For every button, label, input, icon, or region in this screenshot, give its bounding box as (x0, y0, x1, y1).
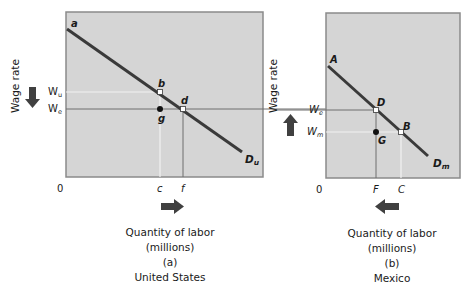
x-tick-F: F (373, 184, 379, 195)
point-b-label: b (158, 78, 165, 89)
point-B-label: B (403, 121, 411, 132)
mexico-origin-label: 0 (316, 184, 322, 195)
x-tick-C: C (398, 184, 405, 195)
wage-up-arrow-icon (283, 114, 298, 136)
point-D-marker (374, 108, 379, 113)
wage-m-label: Wm (307, 126, 323, 139)
wage-down-arrow-icon (25, 87, 40, 108)
point-G-label: G (378, 135, 386, 146)
wage-e-label-us: We (48, 103, 62, 116)
wage-u-label: Wu (48, 86, 62, 99)
us-origin-label: 0 (57, 183, 63, 194)
mexico-x-axis-label: Quantity of labor (332, 226, 452, 241)
point-g-marker (157, 106, 163, 112)
point-A-label: A (329, 54, 338, 65)
point-b-marker (158, 90, 163, 95)
point-d-label: d (181, 95, 189, 106)
labor-left-arrow-icon (375, 199, 399, 214)
mexico-caption: Quantity of labor (millions) (b) Mexico (332, 226, 452, 286)
mexico-panel-tag: (b) (332, 256, 452, 271)
point-d-marker (181, 107, 186, 112)
mexico-country-label: Mexico (332, 271, 452, 286)
point-a-label: a (71, 18, 78, 29)
point-D-label: D (377, 97, 385, 108)
us-y-axis-label: Wage rate (9, 59, 21, 113)
x-tick-c: c (157, 183, 163, 194)
us-x-axis-unit: (millions) (110, 240, 230, 255)
us-country-label: United States (110, 270, 230, 285)
labor-right-arrow-icon (161, 199, 184, 214)
us-x-axis-label: Quantity of labor (110, 225, 230, 240)
mexico-x-axis-unit: (millions) (332, 241, 452, 256)
mexico-panel-background (326, 13, 460, 178)
mexico-y-axis-label: Wage rate (267, 59, 279, 113)
us-panel-background (66, 12, 263, 177)
us-caption: Quantity of labor (millions) (a) United … (110, 225, 230, 285)
x-tick-f: f (181, 183, 186, 194)
wage-e-label-mexico: We (309, 104, 323, 117)
us-panel-tag: (a) (110, 255, 230, 270)
point-g-label: g (158, 113, 165, 124)
